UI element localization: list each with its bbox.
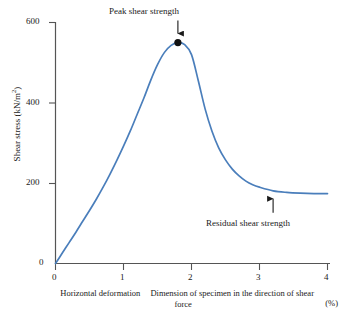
y-axis-title-paren: ) xyxy=(12,87,22,90)
x-axis-title-fraction: Horizontal deformation Dimension of spec… xyxy=(48,288,322,309)
x-tick-label-0: 0 xyxy=(52,272,57,282)
y-tick-label-0: 0 xyxy=(39,257,44,267)
y-axis-title-text: Shear stress (kN/m xyxy=(12,93,22,162)
x-axis-title-numerator: Horizontal deformation xyxy=(56,288,144,298)
shear-stress-curve xyxy=(56,43,328,264)
y-tick-label-200: 200 xyxy=(26,177,40,187)
peak-shear-strength-marker xyxy=(174,39,181,46)
y-axis-title: Shear stress (kN/m2) xyxy=(10,64,22,184)
y-axis-title-exponent: 2 xyxy=(10,90,17,93)
x-tick-label-1: 1 xyxy=(120,272,125,282)
y-tick-label-600: 600 xyxy=(26,16,40,26)
y-axis-ticks xyxy=(49,23,55,184)
x-axis-title-unit: (%) xyxy=(325,298,338,309)
x-tick-label-3: 3 xyxy=(256,272,261,282)
x-axis-ticks xyxy=(56,264,328,270)
x-tick-label-2: 2 xyxy=(188,272,193,282)
residual-shear-strength-label: Residual shear strength xyxy=(206,218,290,228)
y-tick-label-400: 400 xyxy=(26,97,40,107)
x-axis-title-denominator: Dimension of specimen in the direction o… xyxy=(146,288,314,309)
x-axis-title: Horizontal deformation Dimension of spec… xyxy=(48,288,338,309)
peak-shear-strength-label: Peak shear strength xyxy=(109,6,179,16)
x-tick-label-4: 4 xyxy=(324,272,329,282)
chart-figure: 600 400 200 0 0 1 2 3 4 Shear stress (kN… xyxy=(0,0,343,329)
